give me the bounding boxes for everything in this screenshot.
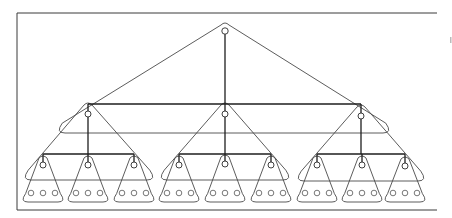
leaf-node-n2-1-3 [188, 190, 194, 196]
leaf-node-n1-1-3 [52, 190, 58, 196]
leaf-node-n2-1-2 [176, 190, 182, 196]
level2-node-n2 [222, 111, 228, 117]
tree-diagram [0, 0, 452, 218]
level3-node-n3-3 [402, 163, 408, 169]
leaf-node-n1-3-2 [131, 190, 137, 196]
leaf-node-n3-3-2 [402, 190, 408, 196]
leaf-node-n2-3-1 [256, 190, 262, 196]
tree-edges [43, 34, 405, 163]
leaf-node-n1-3-3 [143, 190, 149, 196]
leaf-node-n3-3-1 [390, 190, 396, 196]
tree-diagram-canvas [0, 0, 452, 218]
leaf-node-n3-3-3 [414, 190, 420, 196]
level3-node-n2-2 [222, 161, 228, 167]
leaf-node-n3-1-3 [326, 190, 332, 196]
leaf-node-n1-1-2 [40, 190, 46, 196]
level3-node-n2-3 [268, 162, 274, 168]
leaf-node-n1-1-1 [28, 190, 34, 196]
level2-node-n3 [358, 113, 364, 119]
leaf-node-n1-3-1 [119, 190, 125, 196]
level3-node-n1-3 [131, 162, 137, 168]
leaf-node-n2-1-1 [164, 190, 170, 196]
level2-node-n1 [85, 111, 91, 117]
level3-node-n3-1 [314, 162, 320, 168]
leaf-node-n3-1-2 [314, 190, 320, 196]
leaf-node-n2-2-2 [222, 190, 228, 196]
level3-node-n1-2 [85, 162, 91, 168]
leaf-node-n2-2-3 [234, 190, 240, 196]
leaf-node-n3-2-1 [347, 190, 353, 196]
leaf-node-n3-2-2 [359, 190, 365, 196]
leaf-node-n3-2-3 [371, 190, 377, 196]
edge-mark [450, 37, 452, 43]
leaf-node-n2-2-1 [210, 190, 216, 196]
leaf-node-n1-2-2 [85, 190, 91, 196]
root-node [222, 28, 228, 34]
leaf-node-n2-3-3 [280, 190, 286, 196]
leaf-node-n1-2-1 [73, 190, 79, 196]
level3-node-n1-1 [40, 162, 46, 168]
leaf-node-n1-2-3 [97, 190, 103, 196]
leaf-node-n3-1-1 [302, 190, 308, 196]
level3-node-n2-1 [176, 162, 182, 168]
leaf-node-n2-3-2 [268, 190, 274, 196]
level3-node-n3-2 [359, 162, 365, 168]
